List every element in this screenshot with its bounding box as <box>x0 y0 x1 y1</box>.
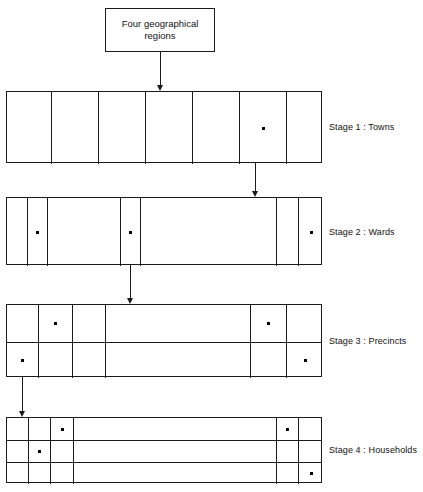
stage-4-cell <box>29 462 51 484</box>
top-box-four-geographical-regions: Four geographical regions <box>105 8 215 52</box>
arrow-head-icon <box>127 298 133 304</box>
stage-2-block <box>6 197 322 265</box>
stage-2-cell <box>28 198 48 266</box>
arrow-head-icon <box>252 191 258 197</box>
stage-2-row <box>7 198 321 266</box>
arrow-head-icon <box>157 85 163 91</box>
stage-3-cell <box>73 342 106 378</box>
stage-4-row <box>7 440 321 462</box>
stage-1-cell <box>287 92 323 164</box>
sampled-unit-marker <box>129 231 132 234</box>
stage-1-cell <box>52 92 99 164</box>
stage-4-cell <box>74 418 277 440</box>
sampled-unit-marker <box>36 231 39 234</box>
sampled-unit-marker <box>262 127 265 130</box>
stage-1-row <box>7 92 321 164</box>
sampled-unit-marker <box>38 450 41 453</box>
stage-4-cell <box>299 440 323 462</box>
stage-3-row <box>7 305 321 342</box>
stage-3-cell <box>251 305 287 342</box>
sampled-unit-marker <box>267 322 270 325</box>
stage-3-cell <box>39 342 73 378</box>
stage-3-cell <box>251 342 287 378</box>
stage-4-cell <box>277 462 299 484</box>
arrow-shaft <box>130 265 131 299</box>
stage-1-cell <box>193 92 240 164</box>
stage-4-cell <box>299 418 323 440</box>
sampled-unit-marker <box>286 428 289 431</box>
stage-4-block <box>6 417 322 483</box>
arrow-head-icon <box>19 411 25 417</box>
stage-3-cell <box>73 305 106 342</box>
arrow-shaft <box>255 163 256 192</box>
stage-4-cell <box>51 440 74 462</box>
stage-2-cell <box>48 198 121 266</box>
stage-4-cell <box>74 462 277 484</box>
sampled-unit-marker <box>310 472 313 475</box>
stage-2-cell <box>7 198 28 266</box>
stage-1-cell <box>240 92 287 164</box>
stage-4-cell <box>74 440 277 462</box>
stage-3-cell <box>7 342 39 378</box>
stage-2-cell <box>299 198 323 266</box>
sampled-unit-marker <box>54 322 57 325</box>
stage-4-cell <box>299 462 323 484</box>
stage-4-cell <box>29 440 51 462</box>
stage-1-cell <box>99 92 146 164</box>
stage-2-cell <box>277 198 299 266</box>
stage-3-cell <box>39 305 73 342</box>
stage-1-label: Stage 1 : Towns <box>329 122 394 132</box>
stage-3-cell <box>7 305 39 342</box>
stage-3-cell <box>106 305 251 342</box>
stage-4-cell <box>7 440 29 462</box>
arrow-shaft <box>160 52 161 86</box>
sampled-unit-marker <box>21 359 24 362</box>
stage-3-cell <box>287 342 323 378</box>
stage-4-cell <box>51 462 74 484</box>
stage-4-cell <box>7 462 29 484</box>
stage-4-label: Stage 4 : Households <box>329 445 417 455</box>
stage-2-cell <box>141 198 277 266</box>
sampled-unit-marker <box>61 428 64 431</box>
stage-4-cell <box>277 440 299 462</box>
stage-4-row <box>7 418 321 440</box>
stage-1-block <box>6 91 322 163</box>
sampled-unit-marker <box>304 359 307 362</box>
stage-3-row <box>7 342 321 378</box>
stage-3-cell <box>106 342 251 378</box>
top-box-label: Four geographical regions <box>106 18 214 42</box>
stage-2-cell <box>121 198 141 266</box>
stage-4-row <box>7 462 321 484</box>
stage-4-cell <box>51 418 74 440</box>
stage-3-label: Stage 3 : Precincts <box>329 336 406 346</box>
stage-1-cell <box>7 92 52 164</box>
stage-4-cell <box>7 418 29 440</box>
stage-4-cell <box>277 418 299 440</box>
arrow-shaft <box>22 377 23 412</box>
multistage-sampling-diagram: Four geographical regions Stage 1 : Town… <box>0 0 423 492</box>
stage-3-cell <box>287 305 323 342</box>
stage-4-cell <box>29 418 51 440</box>
stage-1-cell <box>146 92 193 164</box>
stage-2-label: Stage 2 : Wards <box>329 227 395 237</box>
sampled-unit-marker <box>310 231 313 234</box>
stage-3-block <box>6 304 322 377</box>
